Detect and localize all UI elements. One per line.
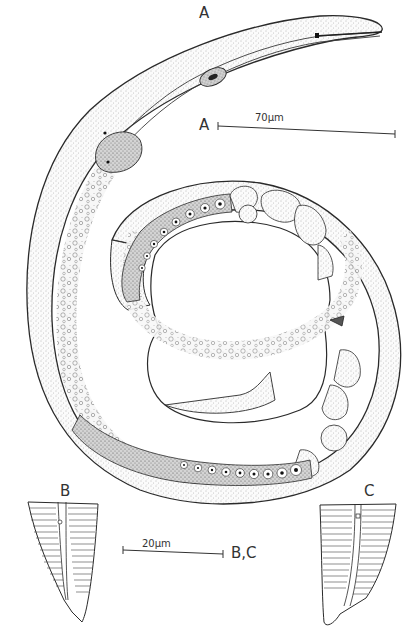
coil-lumen — [148, 221, 331, 422]
scale-text-a: 70µm — [255, 113, 284, 123]
label-scale-bc: B,C — [231, 546, 257, 561]
label-panel-b: B — [60, 484, 70, 499]
scale-bar-bc — [123, 550, 223, 554]
scale-text-bc: 20µm — [142, 539, 171, 549]
panel-a-body — [27, 16, 401, 504]
panel-c-tail — [320, 504, 396, 625]
scale-bar-a — [218, 126, 395, 134]
label-scale-a: A — [199, 118, 209, 133]
label-panel-a: A — [199, 6, 209, 21]
label-panel-c: C — [364, 484, 374, 499]
nematode-figure — [0, 0, 419, 639]
panel-b-tail — [28, 502, 98, 622]
